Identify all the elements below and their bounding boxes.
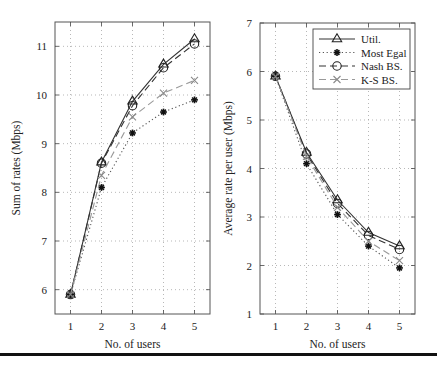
figure: 1234567891011No. of usersSum of rates (M… xyxy=(0,0,437,365)
legend-label: Nash BS. xyxy=(361,60,403,72)
y-tick-label: 8 xyxy=(42,186,48,198)
x-tick-label: 2 xyxy=(304,320,310,332)
series-util xyxy=(66,34,199,297)
star-marker-icon xyxy=(160,109,167,116)
y-tick-label: 7 xyxy=(247,17,253,29)
x-tick-label: 3 xyxy=(130,320,136,332)
y-tick-label: 3 xyxy=(247,211,253,223)
y-tick-label: 7 xyxy=(42,235,48,247)
legend-label: Util. xyxy=(361,33,381,45)
grid-lines xyxy=(55,22,210,314)
y-tick-label: 6 xyxy=(247,66,253,78)
x-tick-label: 5 xyxy=(192,320,198,332)
x-tick-label: 3 xyxy=(335,320,341,332)
star-marker-icon xyxy=(396,265,403,272)
x-tick-label: 1 xyxy=(68,320,74,332)
x-tick-label: 5 xyxy=(397,320,403,332)
y-tick-label: 9 xyxy=(42,138,48,150)
x-axis-label: No. of users xyxy=(310,338,366,350)
series-line xyxy=(71,100,195,295)
y-tick-label: 1 xyxy=(247,308,253,320)
x-tick-label: 2 xyxy=(99,320,105,332)
star-marker-icon xyxy=(191,96,198,103)
y-axis-label: Sum of rates (Mbps) xyxy=(10,120,23,215)
y-tick-label: 5 xyxy=(247,114,253,126)
star-marker-icon xyxy=(129,130,136,137)
star-marker-icon xyxy=(334,211,341,218)
bottom-rule xyxy=(0,353,437,356)
x-tick-label: 4 xyxy=(161,320,167,332)
star-marker-icon xyxy=(334,49,341,56)
x-axis-label: No. of users xyxy=(105,338,161,350)
x-tick-label: 4 xyxy=(366,320,372,332)
legend-label: Most Egal xyxy=(361,47,407,59)
y-tick-label: 10 xyxy=(36,89,48,101)
x-tick-label: 1 xyxy=(273,320,279,332)
chart-sum-of-rates: 1234567891011No. of usersSum of rates (M… xyxy=(10,22,210,350)
y-tick-label: 4 xyxy=(247,163,253,175)
series-line xyxy=(71,44,195,295)
y-tick-label: 11 xyxy=(36,40,47,52)
axes: 1234567891011 xyxy=(36,22,210,332)
y-axis-label: Average rate per user (Mbps) xyxy=(222,101,235,236)
chart-average-rate: 123451234567No. of usersAverage rate per… xyxy=(222,17,415,350)
legend-label: K-S BS. xyxy=(361,74,398,86)
legend: Util.Most EgalNash BS.K-S BS. xyxy=(313,29,410,89)
y-tick-label: 6 xyxy=(42,284,48,296)
series-line xyxy=(276,76,400,246)
y-tick-label: 2 xyxy=(247,260,253,272)
